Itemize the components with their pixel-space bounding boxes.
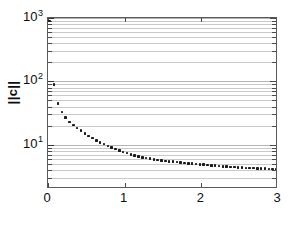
data-point [76, 127, 79, 130]
data-point [99, 141, 102, 144]
gridline [48, 62, 276, 63]
y-axis-tick [48, 28, 52, 29]
y-axis-tick [272, 107, 276, 108]
data-point [57, 102, 60, 105]
data-point [68, 121, 71, 124]
chart-figure: ||c|| 101102103 0123 [0, 0, 289, 226]
y-axis-tick [272, 88, 276, 89]
data-point [210, 164, 213, 167]
x-axis-tick-label: 1 [112, 191, 136, 204]
gridline [48, 32, 276, 33]
y-axis-tick [272, 155, 276, 156]
x-axis-tick [125, 183, 126, 187]
y-axis-tick [272, 178, 276, 179]
data-point [237, 166, 240, 169]
y-axis-tick [272, 62, 276, 63]
data-point [206, 164, 209, 167]
data-point [241, 166, 244, 169]
y-axis-tick [48, 91, 52, 92]
y-axis-tick [48, 178, 52, 179]
data-point [214, 164, 217, 167]
y-axis-tick [48, 32, 52, 33]
gridline [48, 84, 276, 85]
data-point [61, 111, 64, 114]
y-axis-tick [48, 164, 52, 165]
data-point [153, 158, 156, 161]
gridline [48, 95, 276, 96]
y-axis-title: ||c|| [6, 63, 19, 123]
y-axis-tick [48, 126, 52, 127]
data-point [149, 157, 152, 160]
data-point [84, 132, 87, 135]
data-point [225, 165, 228, 168]
y-axis-tick [272, 148, 276, 149]
data-point [130, 153, 133, 156]
y-tick-mantissa: 10 [23, 9, 37, 24]
data-point [87, 135, 90, 138]
data-point [199, 163, 202, 166]
gridline [48, 100, 276, 101]
gridline [48, 37, 276, 38]
y-axis-tick-label: 103 [23, 10, 43, 23]
data-point [64, 116, 67, 119]
gridline [48, 170, 276, 171]
data-point [72, 124, 75, 127]
data-point [118, 149, 121, 152]
data-point [137, 155, 140, 158]
y-axis-tick [272, 51, 276, 52]
y-axis-tick [272, 151, 276, 152]
y-axis-tick [48, 43, 52, 44]
y-axis-tick [48, 159, 52, 160]
data-point [271, 168, 274, 171]
y-axis-tick [272, 21, 276, 22]
data-point [48, 20, 51, 23]
data-point [248, 167, 251, 170]
x-axis-tick-label: 3 [265, 191, 289, 204]
y-axis-tick [48, 151, 52, 152]
x-axis-tick [125, 18, 126, 22]
gridline [48, 151, 276, 152]
y-axis-tick [48, 88, 52, 89]
data-point [179, 161, 182, 164]
y-axis-tick [272, 126, 276, 127]
y-axis-tick [272, 91, 276, 92]
data-point [133, 154, 136, 157]
data-point [160, 159, 163, 162]
y-axis-tick [272, 37, 276, 38]
y-axis-tick [272, 84, 276, 85]
y-axis-tick [272, 114, 276, 115]
gridline [48, 145, 276, 146]
y-axis-tick [272, 170, 276, 171]
data-point [187, 162, 190, 165]
x-axis-tick-label: 2 [188, 191, 212, 204]
data-point [80, 129, 83, 132]
gridline [48, 43, 276, 44]
y-axis-tick [270, 18, 276, 19]
x-axis-tick [201, 183, 202, 187]
data-point [156, 159, 159, 162]
y-axis-tick [48, 62, 52, 63]
data-point [183, 162, 186, 165]
x-axis-tick [48, 183, 49, 187]
gridline [48, 88, 276, 89]
data-point [172, 160, 175, 163]
y-axis-tick [48, 37, 52, 38]
y-axis-tick [272, 32, 276, 33]
plot-area [47, 17, 277, 188]
y-axis-tick [272, 100, 276, 101]
gridline [48, 81, 276, 82]
data-point [91, 137, 94, 140]
y-axis-tick-label: 101 [23, 137, 43, 150]
y-tick-mantissa: 10 [23, 136, 37, 151]
y-axis-tick [272, 24, 276, 25]
y-axis-tick [48, 100, 52, 101]
y-axis-tick [48, 155, 52, 156]
y-axis-tick [270, 145, 276, 146]
y-axis-tick [48, 51, 52, 52]
gridline [48, 107, 276, 108]
y-axis-tick [48, 148, 52, 149]
data-point [202, 163, 205, 166]
data-point [141, 156, 144, 159]
y-axis-tick [48, 145, 54, 146]
data-point [233, 166, 236, 169]
